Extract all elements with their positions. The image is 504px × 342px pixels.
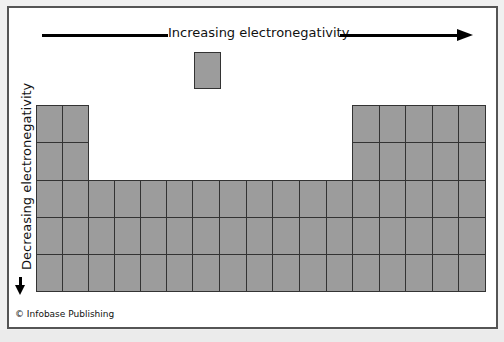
element-cell — [272, 254, 300, 292]
element-cell — [299, 254, 327, 292]
arrow-right-icon — [457, 29, 473, 41]
element-cell — [36, 254, 63, 292]
element-cell — [299, 180, 327, 218]
element-cell — [88, 180, 115, 218]
element-cell — [140, 217, 167, 255]
element-cell — [140, 254, 167, 292]
element-cell — [326, 217, 353, 255]
element-cell — [432, 254, 459, 292]
horizontal-arrow-label: Increasing electronegativity — [168, 25, 338, 40]
element-cell — [405, 254, 433, 292]
element-cell — [432, 180, 459, 218]
element-cell — [192, 254, 220, 292]
element-cell — [36, 217, 63, 255]
element-cell — [140, 180, 167, 218]
element-cell — [379, 142, 406, 181]
horizontal-arrow-line-right — [340, 34, 460, 37]
element-cell — [458, 254, 486, 292]
element-cell — [62, 105, 89, 143]
element-cell — [219, 254, 247, 292]
element-cell — [36, 142, 63, 181]
element-cell — [352, 217, 380, 255]
element-cell — [114, 180, 141, 218]
element-cell — [88, 217, 115, 255]
bottom-margin — [0, 330, 504, 342]
element-cell — [458, 105, 486, 143]
element-cell — [405, 217, 433, 255]
element-cell — [219, 180, 247, 218]
element-cell — [272, 180, 300, 218]
element-cell — [36, 180, 63, 218]
element-cell — [432, 217, 459, 255]
element-cell — [166, 180, 193, 218]
element-cell — [352, 254, 380, 292]
element-cell — [246, 217, 273, 255]
element-cell — [192, 180, 220, 218]
credit-text: © Infobase Publishing — [15, 309, 114, 319]
element-cell — [405, 142, 433, 181]
element-cell — [166, 217, 193, 255]
element-cell — [405, 105, 433, 143]
element-cell — [458, 217, 486, 255]
element-cell — [88, 254, 115, 292]
element-cell — [352, 105, 380, 143]
element-cell — [62, 180, 89, 218]
element-cell — [114, 254, 141, 292]
element-cell — [352, 142, 380, 181]
element-cell — [114, 217, 141, 255]
element-cell — [326, 180, 353, 218]
element-cell — [246, 254, 273, 292]
element-cell — [379, 254, 406, 292]
element-cell — [272, 217, 300, 255]
element-cell — [379, 180, 406, 218]
horizontal-arrow-line-left — [42, 34, 168, 37]
element-cell — [62, 217, 89, 255]
element-cell — [379, 105, 406, 143]
element-cell — [405, 180, 433, 218]
element-cell — [432, 142, 459, 181]
element-cell — [458, 180, 486, 218]
element-cell — [299, 217, 327, 255]
element-cell — [326, 254, 353, 292]
element-cell — [246, 180, 273, 218]
element-cell — [458, 142, 486, 181]
element-cell — [36, 105, 63, 143]
arrow-down-icon — [15, 285, 25, 295]
element-cell — [62, 254, 89, 292]
element-cell — [219, 217, 247, 255]
element-cell — [192, 217, 220, 255]
element-cell — [62, 142, 89, 181]
vertical-arrow-label: Decreasing electronegativity — [19, 83, 34, 270]
element-cell — [166, 254, 193, 292]
element-cell — [379, 217, 406, 255]
element-cell — [352, 180, 380, 218]
element-cell — [432, 105, 459, 143]
hydrogen-cell — [194, 52, 221, 89]
